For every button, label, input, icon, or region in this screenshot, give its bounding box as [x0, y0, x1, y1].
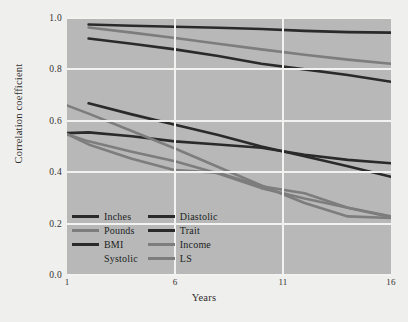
chart-legend: InchesDiastolicPoundsTraitBMIIncomeSysto…	[72, 209, 218, 265]
legend-swatch-icon	[72, 215, 99, 218]
gridline-horizontal	[67, 120, 391, 122]
legend-swatch-icon	[72, 257, 99, 260]
legend-item-trait[interactable]: Trait	[148, 223, 218, 237]
x-axis-title: Years	[0, 292, 408, 303]
legend-item-bmi[interactable]: BMI	[72, 237, 138, 251]
legend-swatch-icon	[148, 215, 175, 218]
legend-label: LS	[180, 253, 192, 264]
y-tick-label: 0.6	[18, 116, 62, 126]
legend-label: Trait	[180, 225, 200, 236]
legend-label: Diastolic	[180, 211, 218, 222]
legend-item-income[interactable]: Income	[148, 237, 218, 251]
legend-item-diastolic[interactable]: Diastolic	[148, 209, 218, 223]
legend-swatch-icon	[72, 229, 99, 232]
series-line-diastolic	[89, 103, 391, 177]
y-tick-label: 0.2	[18, 219, 62, 229]
gridline-vertical	[282, 18, 284, 275]
y-axis-title: Correlation coefficient	[13, 34, 24, 194]
gridline-horizontal	[67, 17, 391, 19]
legend-swatch-icon	[148, 257, 175, 260]
x-axis-ticks: 161116	[0, 277, 408, 291]
series-line-income	[67, 105, 391, 218]
legend-label: Pounds	[104, 225, 135, 236]
legend-label: Systolic	[104, 253, 138, 264]
x-tick-label: 11	[278, 277, 287, 287]
series-line-inches	[89, 24, 391, 32]
legend-item-systolic[interactable]: Systolic	[72, 251, 138, 265]
legend-item-ls[interactable]: LS	[148, 251, 218, 265]
gridline-horizontal	[67, 68, 391, 70]
legend-swatch-icon	[148, 229, 175, 232]
legend-swatch-icon	[148, 243, 175, 246]
legend-item-pounds[interactable]: Pounds	[72, 223, 138, 237]
gridline-horizontal	[67, 171, 391, 173]
y-tick-label: 1.0	[18, 13, 62, 23]
legend-label: Inches	[104, 211, 131, 222]
x-tick-label: 16	[386, 277, 395, 287]
legend-item-inches[interactable]: Inches	[72, 209, 138, 223]
y-tick-label: 0.4	[18, 167, 62, 177]
y-tick-label: 0.8	[18, 64, 62, 74]
legend-label: BMI	[104, 239, 124, 250]
x-tick-label: 1	[65, 277, 70, 287]
figure-panel: 0.00.20.40.60.81.0 161116 Correlation co…	[0, 0, 408, 322]
x-tick-label: 6	[173, 277, 178, 287]
figure-caption	[4, 313, 304, 322]
gridline-horizontal	[67, 274, 391, 276]
legend-swatch-icon	[72, 243, 99, 246]
legend-label: Income	[180, 239, 211, 250]
